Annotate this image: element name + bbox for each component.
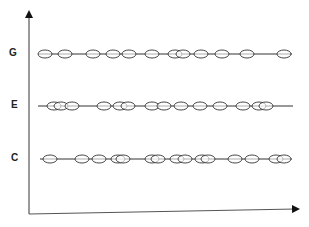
row-c [40, 155, 292, 163]
row-e [38, 102, 293, 110]
oval-node [86, 50, 100, 58]
oval-node [97, 102, 111, 110]
oval-node [122, 50, 136, 58]
oval-node [277, 50, 291, 58]
oval-node [116, 155, 130, 163]
oval-node [236, 102, 250, 110]
oval-node [65, 102, 79, 110]
oval-node [174, 102, 188, 110]
oval-node [201, 155, 215, 163]
oval-node [75, 155, 89, 163]
oval-node [58, 50, 72, 58]
x-axis [29, 209, 296, 214]
oval-node [151, 155, 165, 163]
oval-node [277, 155, 291, 163]
oval-node [176, 50, 190, 58]
oval-node [157, 102, 171, 110]
axes [29, 14, 296, 214]
row-label-e: E [11, 99, 18, 110]
oval-node [193, 102, 207, 110]
row-label-g: G [9, 47, 17, 58]
oval-node [259, 102, 273, 110]
oval-node [213, 102, 227, 110]
oval-node [240, 50, 254, 58]
oval-node [106, 50, 120, 58]
row-label-c: C [11, 152, 18, 163]
oval-node [145, 50, 159, 58]
row-g [38, 50, 292, 58]
oval-node [121, 102, 135, 110]
oval-node [92, 155, 106, 163]
oval-node [245, 155, 259, 163]
oval-node [215, 50, 229, 58]
oval-node [178, 155, 192, 163]
oval-node [194, 50, 208, 58]
oval-node [228, 155, 242, 163]
oval-node [38, 50, 52, 58]
rows [38, 50, 293, 163]
diagram-canvas [0, 0, 309, 227]
oval-node [43, 155, 57, 163]
